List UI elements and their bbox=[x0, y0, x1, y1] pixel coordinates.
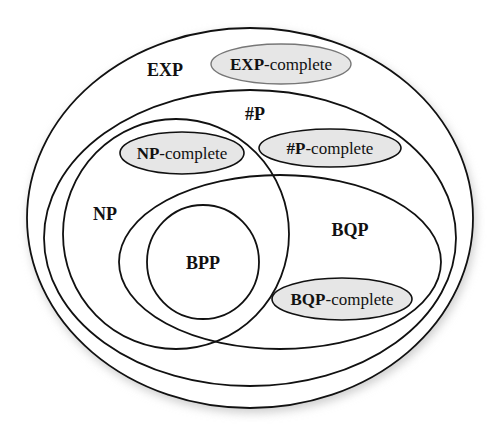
sharp-p-label: #P bbox=[245, 104, 265, 124]
bqp-complete-label-rest: -complete bbox=[325, 290, 393, 309]
bpp-label: BPP bbox=[186, 253, 220, 273]
complexity-venn-diagram: EXP #P NP BQP BPP EXP-complete NP-comple… bbox=[0, 0, 496, 431]
sharp-p-complete-label-rest: -complete bbox=[305, 139, 373, 158]
bqp-complete-label: BQP-complete bbox=[291, 290, 394, 309]
np-complete-label: NP-complete bbox=[137, 144, 228, 163]
np-label: NP bbox=[93, 204, 117, 224]
sharp-p-complete-label-bold: #P bbox=[287, 139, 306, 158]
bqp-label: BQP bbox=[331, 220, 368, 240]
exp-complete-label-bold: EXP bbox=[230, 55, 264, 74]
bqp-complete-label-bold: BQP bbox=[291, 290, 326, 309]
sharp-p-complete-label: #P-complete bbox=[287, 139, 374, 158]
np-complete-label-rest: -complete bbox=[159, 144, 227, 163]
np-complete-label-bold: NP bbox=[137, 144, 160, 163]
exp-label: EXP bbox=[147, 60, 183, 80]
exp-complete-label: EXP-complete bbox=[230, 55, 332, 74]
exp-complete-label-rest: -complete bbox=[264, 55, 332, 74]
